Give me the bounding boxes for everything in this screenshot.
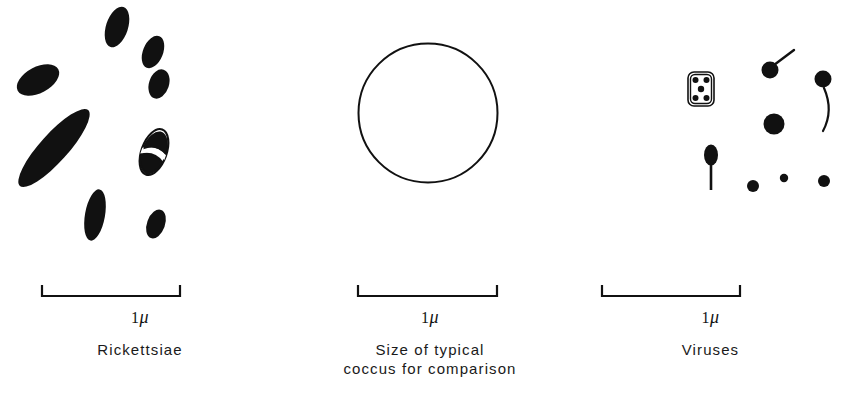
caption-viruses: Viruses — [580, 340, 841, 359]
rickettsiae-specimen-group — [0, 0, 280, 270]
scale-label-coccus: 1μ — [280, 307, 580, 328]
panel-rickettsiae: 1μ Rickettsiae — [0, 0, 280, 397]
specimen-rectangular-virion — [688, 72, 714, 106]
coccus-specimen-group — [280, 0, 580, 270]
scale-unit-mu: μ — [139, 307, 149, 327]
scale-bar-rickettsiae — [0, 284, 280, 306]
coccus-scale-block: 1μ Size of typical coccus for comparison — [280, 284, 580, 378]
specimen-coccus-outline-circle — [359, 44, 498, 183]
caption-rickettsiae: Rickettsiae — [0, 340, 280, 359]
scale-bar-coccus — [280, 284, 580, 306]
caption-line: Size of typical — [280, 340, 580, 359]
specimen-phage-vertical-tail — [704, 145, 718, 191]
rickettsiae-scale-block: 1μ Rickettsiae — [0, 284, 280, 359]
specimen-large-sphere — [764, 114, 785, 135]
specimen-phage-curved-tail — [815, 71, 832, 132]
scale-unit-mu: μ — [710, 307, 720, 327]
specimen-small-sphere-right — [818, 175, 830, 187]
panel-viruses: 1μ Viruses — [580, 0, 841, 397]
specimen-rod-small-top — [100, 4, 134, 51]
specimen-phage-straight-tail — [762, 50, 795, 79]
specimen-rod-lower-middle — [81, 188, 110, 243]
viruses-specimen-group — [580, 0, 841, 270]
specimen-rod-upper-right — [137, 32, 168, 71]
panel-coccus: 1μ Size of typical coccus for comparison — [280, 0, 580, 397]
caption-line: Rickettsiae — [0, 340, 280, 359]
scale-bar-viruses — [580, 284, 841, 306]
size-comparison-figure: 1μ Rickettsiae 1μ Size of typical — [0, 0, 841, 397]
caption-line: Viruses — [580, 340, 841, 359]
specimen-rod-long-diagonal — [9, 101, 98, 196]
viruses-scale-block: 1μ Viruses — [580, 284, 841, 359]
specimen-oval-left-upper — [12, 58, 65, 103]
scale-unit-mu: μ — [429, 307, 439, 327]
specimen-dividing-cell — [134, 125, 174, 179]
specimen-oval-lower-right — [142, 207, 169, 241]
scale-label-rickettsiae: 1μ — [0, 307, 280, 328]
caption-line: coccus for comparison — [280, 359, 580, 378]
specimen-small-sphere-left — [747, 180, 759, 192]
scale-value-number: 1 — [701, 309, 710, 326]
scale-label-viruses: 1μ — [580, 307, 841, 328]
caption-coccus: Size of typical coccus for comparison — [280, 340, 580, 378]
specimen-oval-right-upper — [145, 67, 173, 102]
specimen-small-sphere-mid — [780, 174, 788, 182]
